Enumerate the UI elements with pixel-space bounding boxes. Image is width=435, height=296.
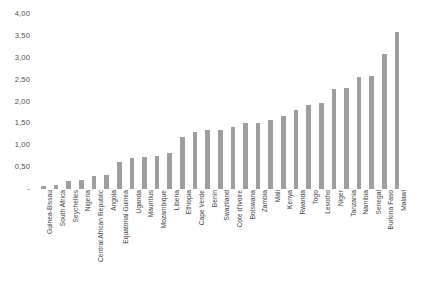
bar (167, 153, 172, 189)
bar (41, 186, 46, 189)
y-axis-tick-label: 2,50 (0, 76, 30, 84)
bar (142, 157, 147, 189)
x-axis-tick-label: Cote d'Ivoire (236, 190, 243, 227)
y-axis-tick-label: 4,00 (0, 10, 30, 18)
bar (243, 123, 248, 189)
bar (92, 176, 97, 189)
x-axis-tick-label: Namibia (362, 190, 369, 215)
bar (369, 76, 374, 189)
x-axis-tick-label: Liberia (173, 190, 180, 210)
x-axis-tick-label: Central African Republic (97, 190, 104, 262)
x-axis-tick-label: Lesotho (324, 190, 331, 214)
x-axis-tick-label: Equatorial Guinea (122, 190, 129, 244)
bar (180, 137, 185, 189)
x-axis-tick-label: Botswana (249, 190, 256, 219)
bar (344, 88, 349, 189)
bar (104, 175, 109, 189)
x-axis-tick-label: Angola (110, 190, 117, 211)
bar (306, 105, 311, 189)
bar (319, 103, 324, 189)
bar (54, 185, 59, 189)
bar (155, 156, 160, 189)
bar (66, 181, 71, 189)
x-axis-tick-label: Rwanda (299, 190, 306, 215)
bar (117, 162, 122, 189)
y-axis-tick-label: 3,00 (0, 54, 30, 62)
x-axis-tick-label: Niger (337, 190, 344, 206)
bar (256, 123, 261, 190)
x-axis-tick-label: Tanzania (350, 190, 357, 217)
bars-container (34, 14, 433, 189)
x-axis-tick-label: Burkina Faso (387, 190, 394, 229)
x-axis-tick-label: Uganda (135, 190, 142, 213)
x-axis-tick-label: Mauritius (147, 190, 154, 217)
bar-chart: 4,003,503,002,502,001,501,000,50- Guinea… (0, 0, 435, 296)
x-axis-tick-label: Kenya (286, 190, 293, 209)
y-axis: 4,003,503,002,502,001,501,000,50- (0, 0, 34, 296)
y-axis-tick-label: 3,50 (0, 32, 30, 40)
y-axis-tick-label: 0,50 (0, 163, 30, 171)
bar (268, 120, 273, 189)
x-axis-tick-label: Benin (211, 190, 218, 207)
x-axis-tick-label: Seychelles (72, 190, 79, 222)
x-axis-tick-label: Mozambique (160, 190, 167, 228)
bar (281, 116, 286, 189)
x-axis-tick-label: Guinea-Bissau (46, 190, 53, 234)
plot-area (34, 14, 433, 189)
bar (218, 130, 223, 189)
y-axis-tick-label: - (0, 185, 30, 193)
bar (130, 158, 135, 190)
x-axis-tick-label: Mali (274, 190, 281, 202)
x-axis-tick-label: Ethiopia (185, 190, 192, 214)
y-axis-tick-label: 1,50 (0, 119, 30, 127)
x-axis-tick-label: South Africa (59, 190, 66, 226)
x-axis-tick-label: Malawi (400, 190, 407, 211)
bar (231, 127, 236, 189)
bar (193, 132, 198, 189)
y-axis-tick-label: 2,00 (0, 98, 30, 106)
x-axis-tick-label: Senegal (375, 190, 382, 215)
x-axis-tick-label: Nigeria (84, 190, 91, 211)
x-axis-tick-label: Zambia (261, 190, 268, 212)
x-axis-tick-label: Togo (312, 190, 319, 205)
bar (294, 110, 299, 189)
x-axis-tick-label: Cape Verde (198, 190, 205, 225)
x-axis-labels: Guinea-BissauSouth AfricaSeychellesNiger… (34, 190, 433, 296)
y-axis-tick-label: 1,00 (0, 141, 30, 149)
bar (382, 54, 387, 189)
x-axis-tick-label: Swaziland (223, 190, 230, 221)
bar (395, 32, 400, 189)
bar (79, 180, 84, 189)
bar (205, 130, 210, 189)
bar (357, 77, 362, 189)
bar (332, 89, 337, 189)
